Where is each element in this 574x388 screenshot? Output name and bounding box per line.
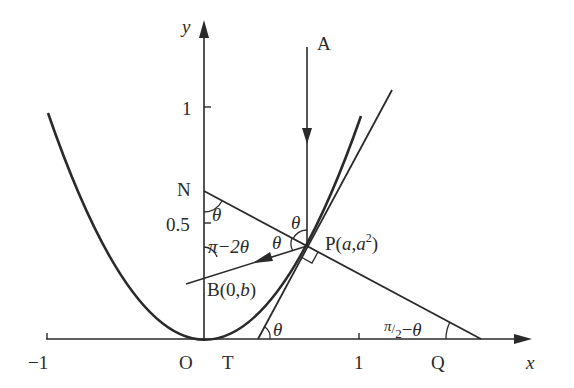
angle-arc-Q <box>446 322 450 339</box>
tangent-line <box>258 90 392 339</box>
label-T: T <box>222 352 234 373</box>
label-O: O <box>179 352 193 373</box>
angle-label-theta-N: θ <box>212 204 221 225</box>
angle-label-pi-minus-2theta: π−2θ <box>208 236 249 257</box>
y-axis-label: y <box>180 16 191 37</box>
label-P: P(a,a2) <box>325 231 378 255</box>
angle-label-half-pi-minus-theta: π/2−θ <box>384 318 422 341</box>
incident-ray-arrow-icon <box>302 128 312 144</box>
label-Q: Q <box>431 352 445 373</box>
y-axis-arrow-icon <box>199 20 209 38</box>
x-axis <box>46 333 532 344</box>
x-axis-arrow-icon <box>514 334 532 344</box>
x-tick-label-1: 1 <box>354 352 364 373</box>
angle-label-theta-P-upper: θ <box>291 212 300 233</box>
angle-label-theta-T: θ <box>273 319 282 340</box>
reflected-ray-arrow-icon <box>253 252 273 263</box>
parabola-reflection-diagram: y x −1 1 1 0.5 O T Q N A B(0,b) P(a,a2) … <box>0 0 574 388</box>
label-A: A <box>317 33 331 54</box>
angle-label-theta-P-left: θ <box>272 232 281 253</box>
angle-arc-T <box>265 327 270 339</box>
label-B: B(0,b) <box>207 279 256 301</box>
label-N: N <box>177 179 191 200</box>
angle-arc-P-left <box>291 238 293 251</box>
x-tick-label-minus1: −1 <box>28 352 48 373</box>
y-tick-label-0.5: 0.5 <box>166 214 190 235</box>
x-axis-label: x <box>525 352 535 373</box>
y-tick-label-1: 1 <box>182 98 192 119</box>
